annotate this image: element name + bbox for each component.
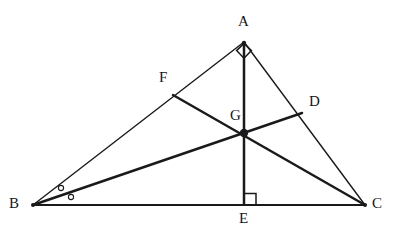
point-label-g: G <box>230 108 241 123</box>
segment-ac <box>244 42 365 205</box>
centroid-point-g <box>240 129 248 137</box>
vertex-point-c <box>363 203 367 207</box>
vertex-point-b <box>31 203 35 207</box>
segment-ab <box>33 42 244 205</box>
angle-mark-b-upper-icon <box>58 185 63 190</box>
right-angle-at-e-icon <box>244 194 256 206</box>
geometry-figure: A B C D E F G <box>0 0 397 237</box>
vertex-point-a <box>242 41 246 45</box>
segment-cf-median <box>173 95 365 205</box>
point-label-c: C <box>372 196 382 211</box>
point-label-f: F <box>159 70 168 85</box>
segment-bd-median <box>33 113 302 205</box>
point-label-d: D <box>309 94 320 109</box>
point-label-a: A <box>238 14 249 29</box>
angle-mark-b-lower-icon <box>68 194 73 199</box>
triangle-diagram-canvas <box>0 0 397 237</box>
point-label-b: B <box>9 196 19 211</box>
point-label-e: E <box>239 211 248 226</box>
